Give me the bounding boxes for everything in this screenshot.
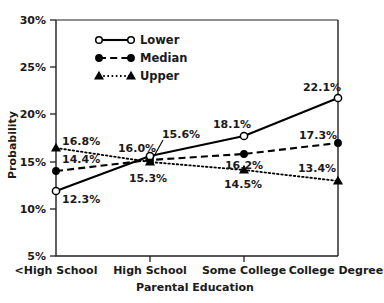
data-label-lower-3: 22.1% <box>303 81 341 94</box>
x-tick-label-high-school-less: <High School <box>15 264 98 277</box>
series-lower-point-2 <box>240 132 247 139</box>
x-tick-label-some-college: Some College <box>202 264 286 277</box>
line-chart-figure: 30% 25% 20% 15% 10% 5% <High School High… <box>0 0 384 303</box>
legend-marker-lower-start <box>96 37 103 44</box>
x-axis-ticks <box>150 256 244 262</box>
y-axis-tick-labels: 30% 25% 20% 15% 10% 5% <box>20 14 46 263</box>
series-lower-point-0 <box>52 187 59 194</box>
legend-label-lower: Lower <box>140 33 180 47</box>
data-label-lower-1: 16.0% <box>118 142 156 155</box>
data-label-median-0: 14.4% <box>62 153 100 166</box>
legend-label-median: Median <box>140 51 187 65</box>
series-median-point-0 <box>53 168 60 175</box>
x-tick-label-college-degree: College Degree <box>289 264 384 277</box>
chart-canvas: 30% 25% 20% 15% 10% 5% <High School High… <box>0 0 384 303</box>
x-axis-title: Parental Education <box>136 281 254 294</box>
y-tick-label-10: 10% <box>20 203 46 216</box>
y-tick-label-15: 15% <box>20 156 46 169</box>
x-tick-label-high-school: High School <box>113 264 187 277</box>
legend-marker-median-start <box>96 55 103 62</box>
data-label-upper-3: 13.4% <box>298 162 336 175</box>
y-axis-title: Probability <box>6 111 19 179</box>
y-tick-label-25: 25% <box>20 61 46 74</box>
data-label-lower-0: 12.3% <box>62 193 100 206</box>
data-label-median-1: 15.6% <box>162 128 200 141</box>
y-tick-label-30: 30% <box>20 14 46 27</box>
data-label-lower-2: 18.1% <box>213 118 251 131</box>
series-upper-point-0 <box>52 144 60 151</box>
legend-marker-median-end <box>128 55 135 62</box>
data-labels: 12.3% 16.0% 18.1% 22.1% 14.4% 15.6% 16.2… <box>62 81 341 206</box>
y-axis-ticks <box>50 20 56 256</box>
legend-marker-upper-start <box>95 72 103 79</box>
data-label-upper-0: 16.8% <box>62 135 100 148</box>
data-label-median-2: 16.2% <box>225 159 263 172</box>
data-label-median-3: 17.3% <box>299 129 337 142</box>
legend-item-median[interactable]: Median <box>96 51 188 65</box>
series-median-point-2 <box>241 151 248 158</box>
legend-marker-upper-end <box>127 72 135 79</box>
legend-marker-lower-end <box>128 37 135 44</box>
data-label-upper-2: 14.5% <box>224 178 262 191</box>
y-tick-label-5: 5% <box>27 250 46 263</box>
legend-item-lower[interactable]: Lower <box>96 33 180 47</box>
data-label-upper-1: 15.3% <box>129 172 167 185</box>
legend-item-upper[interactable]: Upper <box>95 69 180 83</box>
chart-legend: Lower Median Upper <box>95 33 187 83</box>
series-lower-point-3 <box>334 94 341 101</box>
legend-label-upper: Upper <box>140 69 180 83</box>
x-axis-tick-labels: <High School High School Some College Co… <box>15 264 384 277</box>
y-tick-label-20: 20% <box>20 108 46 121</box>
